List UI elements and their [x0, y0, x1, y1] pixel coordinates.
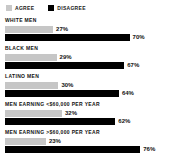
bar-disagree	[5, 118, 115, 125]
bar-value-agree: 27%	[53, 26, 68, 33]
bar-row-disagree: 64%	[5, 90, 187, 97]
group-label: MEN EARNING >$60,000 PER YEAR	[5, 129, 187, 136]
bar-agree	[5, 138, 46, 145]
group-label: MEN EARNING <$60,000 PER YEAR	[5, 101, 187, 108]
bar-disagree	[5, 62, 124, 69]
group-label: BLACK MEN	[5, 45, 187, 52]
bar-row-agree: 27%	[5, 26, 187, 33]
bar-agree	[5, 26, 53, 33]
chart-group: BLACK MEN29%67%	[5, 45, 187, 69]
legend-item-disagree: DISAGREE	[48, 5, 86, 11]
bar-row-agree: 23%	[5, 138, 187, 145]
chart-group: LATINO MEN30%64%	[5, 73, 187, 97]
bar-value-agree: 30%	[58, 82, 73, 89]
bar-value-agree: 23%	[46, 138, 61, 145]
bar-agree	[5, 82, 58, 89]
bar-value-disagree: 76%	[140, 146, 155, 153]
bar-value-agree: 29%	[57, 54, 72, 61]
bar-disagree	[5, 34, 130, 41]
bar-agree	[5, 54, 57, 61]
square-swatch-icon	[6, 5, 12, 11]
bar-row-agree: 32%	[5, 110, 187, 117]
chart-group: MEN EARNING >$60,000 PER YEAR23%76%	[5, 129, 187, 153]
bar-agree	[5, 110, 62, 117]
legend-item-agree: AGREE	[6, 5, 34, 11]
group-label: LATINO MEN	[5, 73, 187, 80]
bar-disagree	[5, 90, 119, 97]
bar-row-agree: 29%	[5, 54, 187, 61]
square-swatch-icon	[48, 5, 54, 11]
bar-row-disagree: 62%	[5, 118, 187, 125]
chart-group: MEN EARNING <$60,000 PER YEAR32%62%	[5, 101, 187, 125]
bar-disagree	[5, 146, 140, 153]
bar-value-disagree: 62%	[115, 118, 130, 125]
legend-label-disagree: DISAGREE	[57, 5, 86, 11]
group-label: WHITE MEN	[5, 17, 187, 24]
legend-label-agree: AGREE	[15, 5, 34, 11]
bar-row-disagree: 70%	[5, 34, 187, 41]
bar-row-agree: 30%	[5, 82, 187, 89]
bar-row-disagree: 67%	[5, 62, 187, 69]
bar-row-disagree: 76%	[5, 146, 187, 153]
bar-value-disagree: 64%	[119, 90, 134, 97]
chart-legend: AGREE DISAGREE	[0, 0, 187, 12]
bar-value-agree: 32%	[62, 110, 77, 117]
chart-groups: WHITE MEN27%70%BLACK MEN29%67%LATINO MEN…	[0, 17, 187, 153]
bar-value-disagree: 67%	[124, 62, 139, 69]
bar-value-disagree: 70%	[130, 34, 145, 41]
chart-group: WHITE MEN27%70%	[5, 17, 187, 41]
bar-chart: AGREE DISAGREE WHITE MEN27%70%BLACK MEN2…	[0, 0, 187, 164]
